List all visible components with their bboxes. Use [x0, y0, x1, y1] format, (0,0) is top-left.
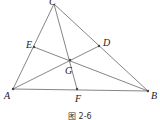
label-d: D [102, 37, 111, 48]
segment-be [34, 47, 148, 91]
label-b: B [151, 90, 157, 101]
segment-ab [13, 89, 148, 91]
label-g: G [65, 65, 72, 76]
point-f [76, 88, 78, 90]
point-a [12, 88, 14, 90]
label-a: A [3, 90, 11, 101]
segment-cf [54, 4, 77, 89]
label-f: F [74, 93, 82, 104]
label-e: E [25, 39, 32, 50]
triangle-diagram: C E D G A F B 图 2-6 [0, 0, 160, 120]
point-d [98, 45, 100, 47]
point-g [69, 59, 71, 61]
figure-caption: 图 2-6 [68, 112, 92, 120]
point-b [147, 90, 149, 92]
segment-bc [54, 4, 148, 91]
point-e [33, 46, 35, 48]
label-c: C [49, 0, 56, 7]
